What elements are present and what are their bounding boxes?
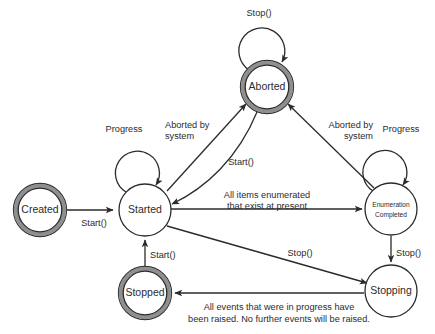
edge-label-abortedby-right-1: Aborted by [329, 120, 374, 130]
stopped-label: Stopped [125, 286, 164, 298]
edge-created-to-started: Start() [66, 210, 113, 228]
state-node-created[interactable]: Created [14, 184, 67, 237]
edge-line-started-stopping [167, 226, 367, 283]
state-node-stopping[interactable]: Stopping [365, 265, 417, 317]
edge-label-stop-diag: Stop() [287, 248, 312, 258]
state-diagram-canvas: Start() Progress Aborted by system Start… [0, 0, 435, 334]
enumeration-completed-label-line1: Enumeration [372, 201, 410, 208]
edge-started-to-enumeration: All items enumerated that exist at prese… [171, 190, 362, 211]
started-label: Started [128, 203, 162, 215]
edge-label-abortedby-right-2: system [344, 131, 373, 141]
aborted-label: Aborted [249, 80, 286, 92]
enumeration-completed-circle [365, 183, 417, 235]
created-label: Created [21, 203, 59, 215]
edge-label-allitems-1: All items enumerated [224, 190, 310, 200]
edge-stopping-to-stopped: All events that were in progress have be… [175, 293, 370, 324]
edge-enumeration-to-stopping: Stop() [391, 236, 421, 262]
edge-line-enumeration-aborted [288, 104, 374, 188]
edge-label-start-created: Start() [81, 218, 107, 228]
state-node-stopped[interactable]: Stopped [119, 267, 172, 320]
edge-label-allitems-2: that exist at present [227, 201, 308, 211]
edge-label-start-bottom: Start() [150, 250, 176, 260]
edge-label-stop-aborted: Stop() [246, 8, 271, 18]
state-node-aborted[interactable]: Aborted [241, 61, 294, 114]
edge-started-to-stopping: Stop() [167, 226, 367, 283]
edge-line-started-aborted [167, 104, 246, 191]
edge-label-allevents-1: All events that were in progress have [204, 302, 355, 312]
enumeration-completed-label-line2: Completed [375, 211, 407, 219]
edge-started-to-aborted: Aborted by system [165, 104, 246, 191]
edge-label-progress-started: Progress [106, 124, 143, 134]
edge-label-allevents-2: been raised. No further events will be r… [188, 314, 370, 324]
state-node-started[interactable]: Started [119, 184, 171, 236]
edge-label-abortedby-left-2: system [165, 131, 194, 141]
edge-label-stop-right: Stop() [396, 248, 421, 258]
edge-enumeration-to-aborted: Aborted by system [288, 104, 374, 188]
edge-label-start-aborted: Start() [228, 157, 254, 167]
state-node-enumeration-completed[interactable]: Enumeration Completed [365, 183, 417, 235]
edge-stopped-to-started: Start() [145, 240, 176, 266]
stopping-label: Stopping [370, 284, 412, 296]
edge-started-self-progress: Progress [106, 124, 160, 192]
edge-label-progress-enumeration: Progress [383, 124, 420, 134]
edge-label-abortedby-left-1: Aborted by [165, 120, 210, 130]
state-machine-diagram: Start() Progress Aborted by system Start… [0, 0, 435, 334]
